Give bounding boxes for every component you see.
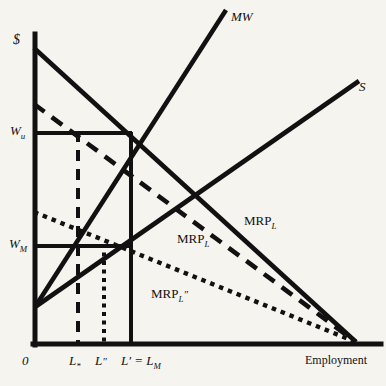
wage-label-union: Wu — [10, 124, 25, 140]
wage-label-monopsony-sub: M — [20, 244, 27, 254]
curve-supply — [35, 81, 359, 307]
curve-label-mrp-l-sub: L — [271, 221, 276, 231]
employment-label-l-double-prime: L″ — [95, 354, 107, 367]
wage-label-monopsony-base: W — [9, 236, 20, 251]
diagram-svg — [0, 0, 386, 386]
curve-label-mrp-l-double-prime-mark: ″ — [183, 288, 188, 300]
wage-label-union-base: W — [10, 123, 21, 138]
curve-label-mw: MW — [231, 10, 253, 23]
curve-label-mrp-l-prime-mark: ′ — [209, 233, 211, 245]
curve-label-mrp-l: MRPL — [244, 214, 276, 230]
wage-label-union-sub: u — [21, 131, 25, 141]
curve-label-mrp-l-double-prime-base: MRP — [151, 286, 178, 301]
wage-label-monopsony: WM — [9, 237, 27, 253]
origin-label: 0 — [22, 354, 29, 367]
curve-label-mrp-l-prime-base: MRP — [177, 231, 204, 246]
curve-label-mrp-l-double-prime: MRPL″ — [151, 287, 188, 303]
y-axis-label: $ — [13, 33, 20, 47]
curve-label-supply: S — [359, 80, 366, 93]
x-axis-label: Employment — [305, 354, 367, 366]
employment-label-l-prime-eq-lm-text: L′ = L — [121, 353, 154, 368]
curve-label-mrp-l-prime: MRPL′ — [177, 232, 212, 248]
employment-label-l-star-mark: * — [76, 361, 80, 371]
curve-label-mrp-l-base: MRP — [244, 213, 271, 228]
employment-label-l-prime-eq-lm: L′ = LM — [121, 354, 161, 370]
diagram-canvas: $ 0 Employment Wu WM L* L″ L′ = LM MW S … — [0, 0, 386, 386]
employment-label-l-star: L* — [69, 354, 81, 370]
employment-label-l-prime-eq-lm-mark: M — [154, 361, 161, 371]
curve-mrp-l-prime — [34, 104, 356, 342]
employment-label-l-double-prime-mark: ″ — [102, 355, 107, 367]
